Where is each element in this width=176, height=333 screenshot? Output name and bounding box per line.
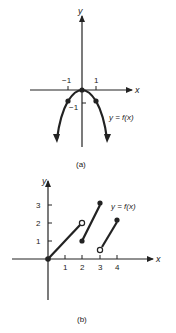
graph-b-ytick-label-1: 1 [36, 237, 41, 246]
graph-b-xtick-label-1: 1 [63, 263, 68, 272]
graph-a-tick-label-y-neg1: −1 [69, 103, 79, 112]
graph-b-point-0-0-filled [45, 256, 51, 262]
graph-b-point-2-2-open [79, 220, 84, 225]
graph-a-tick-label-neg1: −1 [62, 76, 72, 85]
graph-b-xtick-label-3: 3 [98, 263, 103, 272]
graph-a-point-1 [93, 98, 98, 103]
graph-a-arrow-right-icon [104, 134, 111, 143]
graph-a-tick-label-1: 1 [94, 76, 99, 85]
graph-b-xtick-label-2: 2 [80, 263, 85, 272]
graph-b-point-2-1-filled [79, 238, 84, 243]
graph-b-point-4-2-filled [114, 217, 119, 222]
graph-a: y x −1 1 −1 y = f(x) (a) [30, 6, 140, 169]
graph-a-arrow-left-icon [53, 134, 60, 143]
graph-b-segment-1 [48, 225, 80, 259]
graph-b: y x 1 2 3 4 1 2 3 y = f(x) (b) [12, 176, 161, 324]
figure: y x −1 1 −1 y = f(x) (a) y [0, 0, 176, 333]
graph-b-y-label: y [41, 176, 47, 186]
graph-a-caption: (a) [76, 160, 86, 169]
graph-b-xtick-label-4: 4 [115, 263, 120, 272]
graph-b-ytick-label-2: 2 [36, 219, 41, 228]
graph-b-caption: (b) [77, 315, 87, 324]
graph-b-func-label: y = f(x) [110, 202, 136, 211]
graph-b-segment-3 [102, 222, 117, 247]
graph-b-ytick-label-3: 3 [36, 201, 41, 210]
graph-b-point-3-3-filled [97, 200, 102, 205]
graph-b-point-3-05-open [97, 247, 102, 252]
graph-a-y-label: y [77, 6, 83, 16]
graph-a-func-label: y = f(x) [108, 113, 134, 122]
graph-b-x-label: x [155, 254, 161, 264]
graph-a-point-origin [79, 87, 84, 92]
graph-a-x-label: x [134, 85, 140, 95]
